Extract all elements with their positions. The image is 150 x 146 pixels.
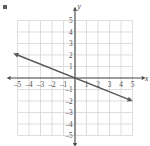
plotted-line	[13, 53, 132, 102]
y-tick-label: 4	[69, 29, 73, 37]
x-tick-labels: –5–4–3–2–112345	[13, 81, 135, 89]
y-tick-label: 1	[69, 63, 73, 71]
x-tick-label: –2	[47, 81, 56, 89]
x-axis-arrow-left-icon	[7, 76, 11, 80]
graph-svg: –5–4–3–2–112345 –5–4–3–2–112345 x y	[0, 0, 150, 146]
bullet-mark-icon	[3, 5, 7, 9]
x-tick-label: 3	[108, 81, 112, 89]
y-tick-label: –3	[64, 109, 73, 117]
x-tick-label: 5	[131, 81, 135, 89]
y-tick-label: –1	[64, 86, 73, 94]
x-tick-label: 4	[119, 81, 123, 89]
y-tick-label: –4	[64, 121, 73, 129]
x-axis-label: x	[144, 74, 149, 83]
x-tick-label: –3	[36, 81, 45, 89]
x-tick-label: –5	[13, 81, 22, 89]
y-tick-label: 2	[69, 52, 73, 60]
y-tick-label: 3	[69, 40, 73, 48]
y-axis-arrow-up-icon	[73, 7, 77, 11]
x-tick-label: –4	[24, 81, 33, 89]
line-segment	[18, 55, 128, 99]
axes	[7, 7, 146, 146]
y-axis-label: y	[77, 2, 82, 11]
y-tick-labels: –5–4–3–2–112345	[64, 17, 73, 140]
y-tick-label: –2	[64, 98, 73, 106]
y-tick-label: –5	[64, 132, 73, 140]
coordinate-plane-figure: –5–4–3–2–112345 –5–4–3–2–112345 x y	[0, 0, 150, 146]
y-axis-arrow-down-icon	[73, 143, 77, 146]
y-tick-label: 5	[69, 17, 73, 25]
